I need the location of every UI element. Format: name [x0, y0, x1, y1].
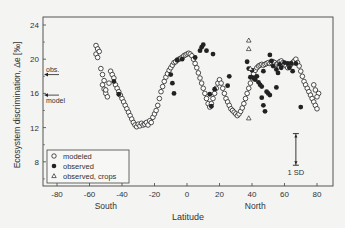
data-point-observed [111, 79, 116, 84]
annotation-label: 1 SD [288, 168, 305, 177]
data-point-observed [254, 74, 259, 79]
data-point-modeled [97, 49, 102, 54]
y-tick-label: 8 [35, 158, 40, 167]
data-point-observed [289, 61, 294, 66]
x-axis-label: Latitude [172, 212, 204, 222]
data-point-crops [246, 38, 251, 42]
hemisphere-label: South [95, 201, 117, 211]
data-point-observed [298, 105, 303, 110]
data-point-observed [209, 104, 214, 109]
x-tick-label: 20 [215, 190, 224, 199]
data-point-observed [201, 42, 206, 47]
legend-marker-open-circle-icon [52, 154, 56, 158]
x-tick-label: -20 [149, 190, 161, 199]
annotation-label: obs. [46, 66, 59, 73]
data-point-modeled [298, 69, 303, 74]
data-point-modeled [160, 84, 165, 89]
data-point-observed [180, 57, 185, 62]
data-point-observed [259, 84, 264, 89]
y-tick-label: 12 [30, 124, 39, 133]
y-axis-ticks: 812162024 [30, 21, 46, 179]
data-point-observed [263, 109, 268, 114]
arrow-head-icon [294, 135, 297, 138]
data-point-observed [204, 48, 209, 53]
data-point-observed [293, 61, 298, 66]
data-point-observed [269, 59, 274, 64]
data-point-observed [261, 69, 266, 74]
data-point-observed [276, 70, 281, 75]
data-point-modeled [311, 83, 316, 88]
data-point-observed [267, 93, 272, 98]
legend-label: observed [63, 162, 94, 171]
data-point-modeled [196, 71, 201, 76]
x-tick-label: 40 [248, 190, 257, 199]
data-point-observed [116, 92, 121, 97]
data-point-modeled [157, 96, 162, 101]
arrow-head-icon [294, 161, 297, 164]
data-point-observed [245, 59, 250, 64]
data-point-modeled [194, 65, 199, 70]
data-point-modeled [204, 96, 209, 101]
data-point-modeled [154, 108, 159, 113]
data-point-modeled [203, 91, 208, 96]
y-tick-label: 20 [30, 55, 39, 64]
data-point-modeled [219, 81, 224, 86]
data-point-modeled [211, 96, 216, 101]
annotation-label: model [46, 97, 66, 104]
data-point-modeled [222, 91, 227, 96]
x-tick-label: 60 [280, 190, 289, 199]
data-point-observed [175, 58, 180, 63]
data-point-modeled [248, 81, 253, 86]
legend-label: modeled [63, 152, 92, 161]
data-point-modeled [159, 89, 164, 94]
data-point-modeled [149, 120, 154, 125]
scatter-chart: -80-60-40-20020406080SouthNorth 81216202… [0, 0, 345, 228]
data-point-observed [168, 72, 173, 77]
data-point-observed [207, 92, 212, 97]
x-tick-label: 80 [313, 190, 322, 199]
x-axis-ticks: -80-60-40-20020406080SouthNorth [51, 183, 322, 211]
data-point-modeled [220, 86, 225, 91]
x-tick-label: -40 [116, 190, 128, 199]
data-point-observed [274, 85, 279, 90]
data-point-observed [227, 74, 232, 79]
data-point-modeled [315, 95, 320, 100]
series-modeled [94, 43, 321, 129]
data-point-observed [267, 53, 272, 58]
data-point-observed [212, 87, 217, 92]
data-point-observed [172, 91, 177, 96]
data-point-modeled [315, 106, 320, 111]
data-point-modeled [105, 95, 110, 100]
data-point-observed [261, 103, 266, 108]
data-point-modeled [242, 101, 247, 106]
data-point-observed [193, 55, 198, 60]
data-point-modeled [107, 81, 112, 86]
data-point-observed [225, 83, 230, 88]
data-point-modeled [198, 76, 203, 81]
data-point-observed [290, 69, 295, 74]
data-point-modeled [245, 91, 250, 96]
legend: modeledobservedobserved, crops [47, 150, 129, 183]
data-point-modeled [155, 103, 160, 108]
data-point-crops [246, 116, 251, 120]
arrow-head-icon [44, 73, 48, 77]
data-point-crops [246, 47, 251, 51]
data-point-modeled [313, 88, 318, 93]
data-point-modeled [300, 74, 305, 79]
data-point-modeled [95, 55, 100, 60]
x-tick-label: 0 [185, 190, 190, 199]
data-point-observed [259, 95, 264, 100]
data-point-observed [211, 52, 216, 57]
hemisphere-label: North [245, 201, 266, 211]
legend-marker-filled-circle-icon [52, 164, 57, 169]
data-point-modeled [103, 88, 108, 93]
data-point-modeled [246, 86, 251, 91]
data-point-modeled [212, 91, 217, 96]
data-point-observed [170, 81, 175, 86]
data-point-modeled [199, 81, 204, 86]
data-point-observed [279, 65, 284, 70]
y-tick-label: 24 [30, 21, 39, 30]
data-point-modeled [243, 96, 248, 101]
data-point-modeled [99, 66, 104, 71]
data-point-modeled [100, 72, 105, 77]
